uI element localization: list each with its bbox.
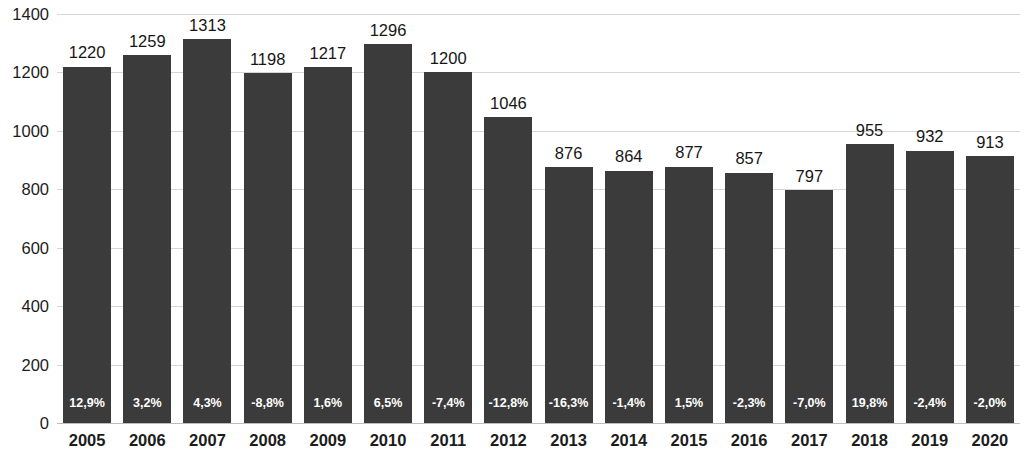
bar[interactable]: -7,4%	[424, 72, 472, 423]
bar[interactable]: -1,4%	[605, 171, 653, 423]
bar-percent-label: -2,3%	[733, 397, 766, 410]
x-axis-tick-label: 2008	[249, 432, 286, 449]
bar-slot[interactable]: -7,0%797	[785, 14, 833, 423]
x-axis-tick-label: 2015	[671, 432, 708, 449]
bar[interactable]: 1,6%	[304, 67, 352, 423]
bar-value-label: 857	[735, 150, 763, 167]
y-axis-tick-label: 1200	[1, 64, 49, 81]
bar-value-label: 1200	[430, 50, 467, 67]
bar-value-label: 877	[675, 144, 703, 161]
bar-percent-label: 1,5%	[675, 397, 704, 410]
y-axis-tick-label: 600	[1, 239, 49, 256]
bar-percent-label: 6,5%	[374, 397, 403, 410]
bar-percent-label: -2,4%	[913, 397, 946, 410]
x-axis-tick-label: 2019	[911, 432, 948, 449]
bar-percent-label: -1,4%	[612, 397, 645, 410]
bar-slot[interactable]: 19,8%955	[846, 14, 894, 423]
bar-value-label: 864	[615, 148, 643, 165]
bar-percent-label: 3,2%	[133, 397, 162, 410]
bar-percent-label: -8,8%	[251, 397, 284, 410]
bar[interactable]: 19,8%	[846, 144, 894, 423]
y-axis-tick-label: 800	[1, 181, 49, 198]
bar-slot[interactable]: -2,4%932	[906, 14, 954, 423]
bar-slot[interactable]: 1,5%877	[665, 14, 713, 423]
plot-area: 12,9%12203,2%12594,3%1313-8,8%11981,6%12…	[57, 14, 1020, 423]
bar-chart: 0200400600800100012001400 12,9%12203,2%1…	[0, 0, 1027, 456]
bar[interactable]: -8,8%	[244, 73, 292, 423]
bar-slot[interactable]: -7,4%1200	[424, 14, 472, 423]
bar-value-label: 1220	[69, 44, 106, 61]
x-axis-tick-label: 2005	[69, 432, 106, 449]
bar-percent-label: -7,0%	[793, 397, 826, 410]
x-axis-tick-label: 2007	[189, 432, 226, 449]
bar[interactable]: 4,3%	[183, 39, 231, 423]
bar-percent-label: 12,9%	[69, 397, 104, 410]
bar[interactable]: 12,9%	[63, 67, 111, 423]
bar[interactable]: -16,3%	[545, 167, 593, 423]
x-axis-tick-label: 2011	[430, 432, 466, 449]
bar[interactable]: -2,0%	[966, 156, 1014, 423]
bar[interactable]: -2,4%	[906, 151, 954, 423]
bar-percent-label: 4,3%	[193, 397, 222, 410]
bar-percent-label: 19,8%	[852, 397, 887, 410]
axis-baseline	[57, 423, 1020, 424]
x-axis-tick-label: 2009	[309, 432, 346, 449]
bar[interactable]: -12,8%	[484, 117, 532, 423]
bar-value-label: 1046	[490, 95, 527, 112]
bar-value-label: 1313	[189, 17, 226, 34]
bar-percent-label: -7,4%	[432, 397, 465, 410]
bar-slot[interactable]: -12,8%1046	[484, 14, 532, 423]
bar-slot[interactable]: 1,6%1217	[304, 14, 352, 423]
y-axis-tick-label: 400	[1, 298, 49, 315]
bar-value-label: 913	[976, 134, 1004, 151]
bar[interactable]: 1,5%	[665, 167, 713, 423]
y-axis-tick-label: 200	[1, 356, 49, 373]
bar-slot[interactable]: -2,0%913	[966, 14, 1014, 423]
bar-percent-label: 1,6%	[314, 397, 343, 410]
bar-slot[interactable]: -1,4%864	[605, 14, 653, 423]
bar-percent-label: -12,8%	[489, 397, 529, 410]
y-axis: 0200400600800100012001400	[0, 14, 49, 423]
x-axis-tick-label: 2017	[791, 432, 828, 449]
bar-slot[interactable]: 3,2%1259	[123, 14, 171, 423]
bar-value-label: 1259	[129, 33, 166, 50]
bar[interactable]: 3,2%	[123, 55, 171, 423]
bar-value-label: 955	[856, 122, 884, 139]
bar-percent-label: -2,0%	[974, 397, 1007, 410]
bar-slot[interactable]: 6,5%1296	[364, 14, 412, 423]
bar-value-label: 876	[555, 145, 583, 162]
bar-slot[interactable]: -16,3%876	[545, 14, 593, 423]
y-axis-tick-label: 0	[1, 415, 49, 432]
x-axis-tick-label: 2010	[370, 432, 407, 449]
bar[interactable]: -7,0%	[785, 190, 833, 423]
x-axis-tick-label: 2016	[731, 432, 768, 449]
x-axis-tick-label: 2013	[550, 432, 587, 449]
x-axis-tick-label: 2014	[610, 432, 647, 449]
bar-slot[interactable]: 4,3%1313	[183, 14, 231, 423]
x-axis: 2005200620072008200920102011201220132014…	[57, 428, 1020, 456]
bar-value-label: 797	[796, 168, 824, 185]
bar-value-label: 1198	[250, 51, 285, 68]
bar-slot[interactable]: -2,3%857	[725, 14, 773, 423]
x-axis-tick-label: 2020	[972, 432, 1009, 449]
bar-value-label: 1296	[370, 22, 407, 39]
bar-value-label: 1217	[309, 45, 346, 62]
bar-slot[interactable]: 12,9%1220	[63, 14, 111, 423]
bar-value-label: 932	[916, 128, 944, 145]
bar[interactable]: -2,3%	[725, 173, 773, 423]
bar-percent-label: -16,3%	[549, 397, 589, 410]
x-axis-tick-label: 2012	[490, 432, 527, 449]
y-axis-tick-label: 1000	[1, 123, 49, 140]
x-axis-tick-label: 2018	[851, 432, 888, 449]
x-axis-tick-label: 2006	[129, 432, 166, 449]
y-axis-tick-label: 1400	[1, 6, 49, 23]
bar-slot[interactable]: -8,8%1198	[244, 14, 292, 423]
bar[interactable]: 6,5%	[364, 44, 412, 423]
